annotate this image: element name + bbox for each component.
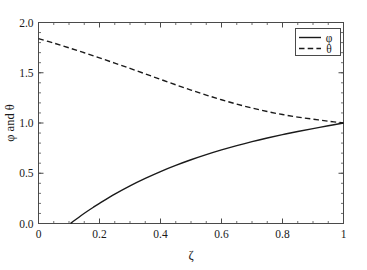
chart-figure: 00.20.40.60.81 0.00.51.01.52.0 φ θ ζ φ a…: [0, 0, 367, 270]
x-tick-label: 0.6: [214, 228, 229, 240]
legend-label-theta: θ: [326, 43, 332, 55]
x-tick-label: 0.8: [275, 228, 290, 240]
x-tick-label: 0: [36, 228, 42, 240]
y-tick-label: 0.5: [19, 167, 34, 179]
y-tick-label: 2.0: [19, 17, 34, 29]
legend[interactable]: φ θ: [296, 29, 341, 56]
y-tick-label: 1.0: [19, 117, 34, 129]
x-axis-title: ζ: [188, 248, 193, 262]
x-tick-label: 0.4: [153, 228, 168, 240]
legend-box: [296, 29, 341, 56]
x-tick-label: 0.2: [92, 228, 107, 240]
x-tick-label: 1: [341, 228, 347, 240]
y-tick-label: 0.0: [19, 218, 34, 230]
plot-canvas: 00.20.40.60.81 0.00.51.01.52.0 φ θ ζ φ a…: [0, 0, 367, 270]
y-axis-title: φ and θ: [3, 104, 17, 142]
y-tick-label: 1.5: [19, 67, 34, 79]
